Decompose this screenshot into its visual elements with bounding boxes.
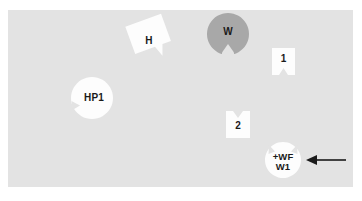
arrow-left-icon bbox=[306, 153, 346, 167]
marker-two[interactable]: 2 bbox=[226, 111, 250, 138]
diagram-canvas: H W 1 HP1 2 bbox=[0, 0, 362, 201]
marker-w-shape bbox=[206, 12, 250, 56]
marker-h-shape bbox=[122, 12, 178, 66]
marker-w[interactable]: W bbox=[206, 12, 250, 56]
marker-two-shape bbox=[226, 111, 250, 138]
marker-wf-w1[interactable]: +WF W1 bbox=[264, 141, 302, 179]
marker-hp1-shape bbox=[70, 76, 114, 120]
marker-hp1[interactable]: HP1 bbox=[70, 76, 114, 120]
marker-wf-w1-shape bbox=[264, 141, 302, 179]
marker-h[interactable]: H bbox=[122, 12, 178, 66]
marker-one[interactable]: 1 bbox=[272, 48, 295, 75]
marker-one-shape bbox=[272, 48, 295, 75]
arrow-left-glyph bbox=[306, 153, 346, 167]
